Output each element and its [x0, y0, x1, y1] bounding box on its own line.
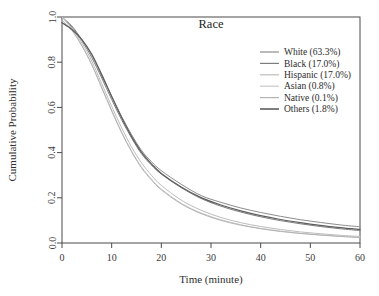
- x-tick-label: 50: [305, 252, 315, 263]
- x-tick-label: 60: [355, 252, 365, 263]
- plot-title: Race: [199, 17, 224, 31]
- x-axis-title: Time (minute): [179, 273, 243, 286]
- x-tick-label: 20: [156, 252, 166, 263]
- legend-label-native: Native (0.1%): [284, 93, 338, 104]
- x-axis-ticks: 0102030405060: [60, 243, 366, 263]
- y-tick-label: 0.8: [47, 56, 58, 68]
- y-axis-ticks: 0.00.20.40.60.81.0: [47, 11, 63, 250]
- y-tick-label: 0.4: [47, 146, 58, 159]
- y-tick-label: 0.2: [47, 192, 58, 205]
- x-tick-label: 10: [107, 252, 117, 263]
- legend-label-white: White (63.3%): [284, 47, 340, 58]
- legend: White (63.3%)Black (17.0%)Hispanic (17.0…: [260, 47, 351, 115]
- x-tick-label: 40: [256, 252, 266, 263]
- legend-label-hispanic: Hispanic (17.0%): [284, 70, 351, 81]
- y-tick-label: 1.0: [47, 11, 58, 24]
- y-tick-label: 0.0: [47, 237, 58, 250]
- chart-figure: Race 0102030405060 0.00.20.40.60.81.0 Wh…: [0, 0, 379, 296]
- plot-canvas: Race 0102030405060 0.00.20.40.60.81.0 Wh…: [0, 0, 379, 296]
- y-axis-title: Cumulative Probability: [6, 78, 18, 181]
- x-tick-label: 0: [60, 252, 65, 263]
- legend-label-others: Others (1.8%): [284, 104, 338, 115]
- legend-label-asian: Asian (0.8%): [284, 81, 335, 92]
- y-tick-label: 0.6: [47, 101, 58, 114]
- legend-label-black: Black (17.0%): [284, 59, 339, 70]
- title-group: Race: [199, 17, 224, 31]
- x-tick-label: 30: [206, 252, 216, 263]
